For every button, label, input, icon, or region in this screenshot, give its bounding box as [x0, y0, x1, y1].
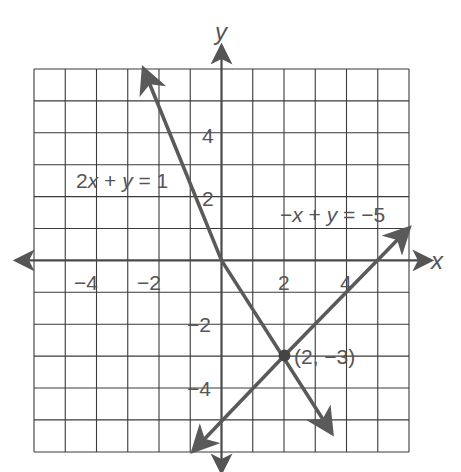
y-axis-label: y: [213, 18, 229, 45]
ytick-neg4: −4: [187, 377, 211, 400]
x-tick-labels: −4 −2 2 4: [74, 271, 352, 294]
equation-label-line-1: 2x + y = 1: [76, 169, 168, 192]
intersection-point: [279, 350, 291, 362]
xtick-2: 2: [278, 271, 290, 294]
y-tick-labels: 4 2 −2 −4: [187, 124, 214, 400]
xtick-neg4: −4: [74, 271, 98, 294]
x-axis-label: x: [430, 247, 444, 274]
xtick-neg2: −2: [137, 271, 161, 294]
axes: [17, 47, 430, 471]
xtick-4: 4: [340, 271, 352, 294]
equation-label-line-2: −x + y = −5: [280, 203, 385, 226]
line-neg-x-plus-y-eq-neg-5-lower: [194, 356, 284, 450]
coordinate-plane: y x −4 −2 2 4 4 2 −2 −4 2x + y = 1 −x + …: [0, 0, 461, 472]
ytick-4: 4: [202, 124, 214, 147]
intersection-label: (2, −3): [294, 345, 355, 368]
ytick-2: 2: [202, 187, 214, 210]
ytick-neg2: −2: [187, 313, 211, 336]
